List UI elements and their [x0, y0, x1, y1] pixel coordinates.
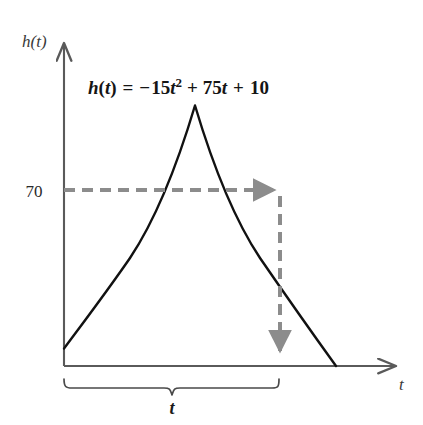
equation-term1-exponent: 2 — [175, 75, 182, 90]
quadratic-height-graph: h(t) t 70 h(t)=−15t2+75t+10 t — [0, 0, 423, 425]
equation-constant: 10 — [250, 77, 269, 98]
y-axis-label: h(t) — [22, 32, 47, 51]
equation-term1-coeff: 15 — [151, 77, 170, 98]
equation-lhs-func: h — [88, 77, 99, 98]
equation-term2-coeff: 75 — [203, 77, 222, 98]
equation-plus1: + — [187, 77, 198, 98]
equation-term1-sign: − — [139, 77, 150, 98]
equation-lhs-close: ) — [110, 77, 116, 99]
equation-plus2: + — [233, 77, 244, 98]
equation-equals: = — [123, 77, 134, 98]
y-tick-label-70: 70 — [26, 182, 43, 201]
equation-term2-var: t — [222, 77, 228, 98]
